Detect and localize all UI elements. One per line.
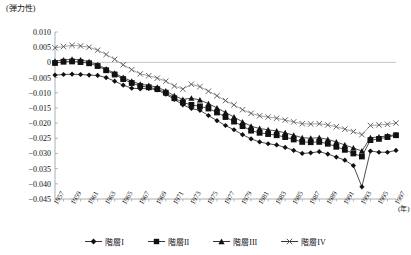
square-icon <box>148 238 165 245</box>
data-point-diamond <box>308 150 313 155</box>
data-point-diamond <box>61 72 66 77</box>
data-point-diamond <box>257 139 262 144</box>
data-point-triangle <box>359 148 365 154</box>
legend-label-3: 階層IV <box>301 236 325 247</box>
data-point-square <box>350 151 356 157</box>
x-tick-label: 1967 <box>138 189 152 206</box>
y-tick-label: −0.020 <box>28 119 51 128</box>
data-point-diamond <box>214 118 219 123</box>
data-point-diamond <box>351 163 356 168</box>
data-point-cross <box>240 107 245 112</box>
data-point-diamond <box>266 141 271 146</box>
data-point-triangle <box>342 142 348 148</box>
legend-item-2[interactable]: 階層III <box>213 236 257 247</box>
data-point-diamond <box>342 158 347 163</box>
data-point-diamond <box>248 136 253 141</box>
data-point-triangle <box>214 105 220 111</box>
x-tick-label: 1983 <box>274 189 288 206</box>
x-tick-label: 1981 <box>257 189 271 206</box>
data-point-cross <box>359 132 364 137</box>
data-point-cross <box>163 78 168 83</box>
y-tick-label: 0.005 <box>33 43 51 52</box>
data-point-triangle <box>188 95 194 101</box>
chart-legend: 階層I 階層II 階層III 階層IV <box>0 236 411 247</box>
y-tick-label: 0 <box>47 58 51 67</box>
x-tick-label: 1979 <box>240 189 254 206</box>
data-point-triangle <box>248 123 254 129</box>
data-point-diamond <box>359 184 364 189</box>
y-tick-label: −0.040 <box>28 180 51 189</box>
legend-label-1: 階層II <box>168 236 189 247</box>
y-tick-label: −0.045 <box>28 195 51 204</box>
x-tick-label: 1987 <box>308 189 322 206</box>
data-point-diamond <box>206 113 211 118</box>
x-tick-label: 1977 <box>223 189 237 206</box>
y-tick-label: −0.010 <box>28 89 51 98</box>
chart-figure: (弾力性) 0.0100.0050−0.005−0.010−0.015−0.02… <box>0 0 411 255</box>
x-tick-label: 1995 <box>376 189 390 206</box>
data-point-diamond <box>393 148 398 153</box>
data-point-triangle <box>205 101 211 107</box>
y-tick-label: −0.005 <box>28 74 51 83</box>
diamond-icon <box>85 238 102 245</box>
data-point-diamond <box>78 72 83 77</box>
data-point-cross <box>223 98 228 103</box>
data-point-diamond <box>300 151 305 156</box>
data-point-diamond <box>334 154 339 159</box>
legend-label-0: 階層I <box>105 236 124 247</box>
data-point-diamond <box>223 123 228 128</box>
data-point-cross <box>206 89 211 94</box>
legend-label-2: 階層III <box>233 236 257 247</box>
data-point-diamond <box>52 73 57 78</box>
legend-item-1[interactable]: 階層II <box>148 236 189 247</box>
data-point-diamond <box>283 145 288 150</box>
x-axis-unit: (年) <box>398 204 410 213</box>
data-point-cross <box>189 82 194 87</box>
data-point-square <box>197 103 203 109</box>
data-point-cross <box>172 83 177 88</box>
data-point-triangle <box>240 119 246 125</box>
data-point-cross <box>112 57 117 62</box>
y-tick-label: −0.025 <box>28 134 51 143</box>
x-tick-label: 1991 <box>342 189 356 206</box>
x-tick-label: 1985 <box>291 189 305 206</box>
data-point-diamond <box>291 148 296 153</box>
x-tick-label: 1969 <box>155 189 169 206</box>
series-階層II <box>52 59 399 160</box>
data-point-triangle <box>223 109 229 115</box>
data-point-cross <box>214 93 219 98</box>
chart-svg: 0.0100.0050−0.005−0.010−0.015−0.020−0.02… <box>0 0 411 255</box>
data-point-cross <box>155 75 160 80</box>
data-point-cross <box>180 86 185 91</box>
data-point-diamond <box>317 149 322 154</box>
x-tick-label: 1963 <box>103 189 117 206</box>
y-tick-label: −0.035 <box>28 165 51 174</box>
series-line <box>55 45 396 134</box>
data-point-cross <box>342 126 347 131</box>
data-point-cross <box>129 67 134 72</box>
legend-item-0[interactable]: 階層I <box>85 236 124 247</box>
data-point-square <box>333 144 339 150</box>
legend-item-3[interactable]: 階層IV <box>281 236 325 247</box>
data-point-diamond <box>376 150 381 155</box>
data-point-diamond <box>129 86 134 91</box>
data-point-diamond <box>368 148 373 153</box>
data-point-diamond <box>95 73 100 78</box>
data-point-cross <box>231 102 236 107</box>
data-point-diamond <box>274 142 279 147</box>
series-line <box>55 74 396 187</box>
x-tick-label: 1989 <box>325 189 339 206</box>
y-tick-label: −0.030 <box>28 149 51 158</box>
data-point-square <box>342 147 348 153</box>
x-tick-label: 1961 <box>86 189 100 206</box>
data-point-cross <box>351 129 356 134</box>
data-point-diamond <box>385 150 390 155</box>
triangle-icon <box>213 238 230 245</box>
data-point-cross <box>197 84 202 89</box>
data-point-diamond <box>87 73 92 78</box>
data-point-square <box>206 106 212 112</box>
data-point-diamond <box>325 151 330 156</box>
data-point-cross <box>248 111 253 116</box>
x-tick-label: 1973 <box>189 189 203 206</box>
data-point-diamond <box>69 72 74 77</box>
